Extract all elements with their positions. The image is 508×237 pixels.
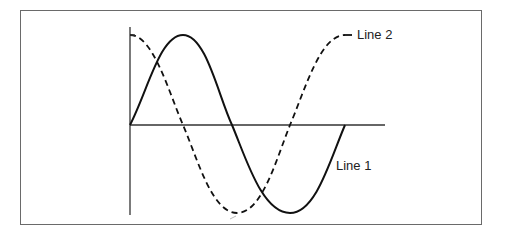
line-1-label: Line 1 [336,158,371,173]
line-2-label: Line 2 [357,27,392,42]
trough-mark [230,216,236,219]
line-2-curve [130,35,345,213]
line-1-curve [130,35,345,213]
waveform-diagram [0,0,508,237]
